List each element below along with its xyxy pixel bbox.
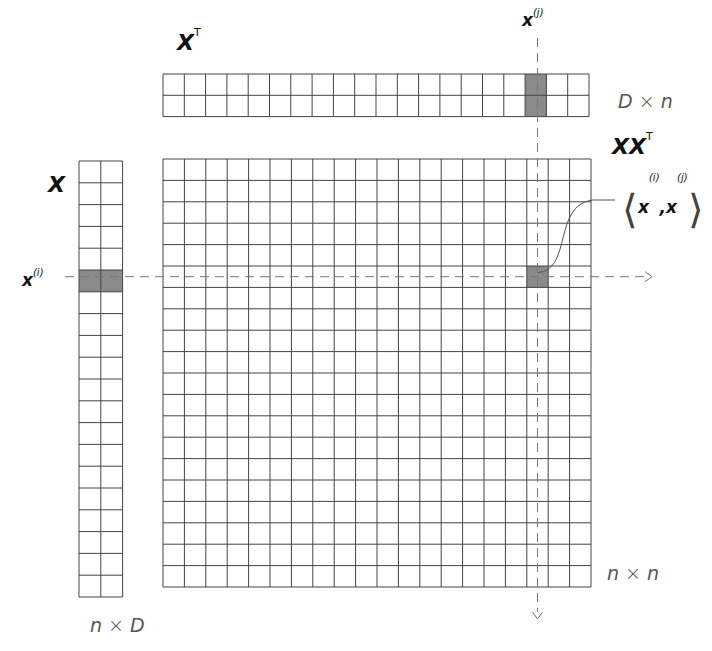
inner-product-label: ⟨x(i),x(j)⟩ (622, 186, 704, 232)
dimension-label-left: n × D (90, 614, 145, 636)
matrix-xxt-grid (163, 159, 591, 587)
matrix-x-transpose-grid (163, 74, 589, 117)
arrow-down-icon (533, 612, 543, 619)
label-xxt: XXT (612, 134, 653, 159)
label-x: X (48, 172, 65, 197)
label-x-j: x(j) (522, 10, 544, 30)
label-x-transpose: XT (177, 30, 201, 55)
gram-matrix-diagram (0, 0, 712, 651)
dimension-label-big: n × n (607, 562, 659, 584)
matrix-x-grid (79, 161, 123, 597)
label-x-i: x(i) (22, 270, 44, 290)
dimension-label-top: D × n (618, 90, 673, 112)
guide-lines (65, 38, 652, 619)
callout-curve (538, 200, 616, 273)
arrow-right-icon (645, 272, 652, 282)
